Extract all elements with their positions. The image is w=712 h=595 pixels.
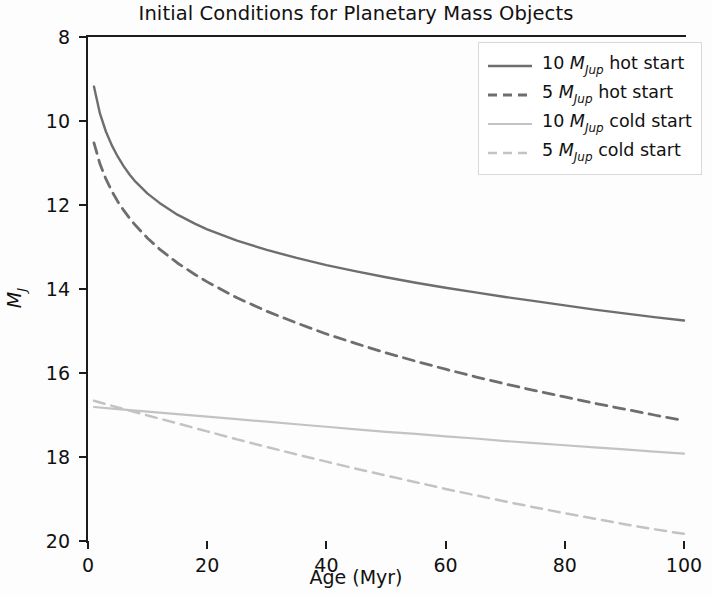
legend-item-1[interactable]: 10 MJup hot start — [487, 50, 693, 79]
x-tick-mark — [87, 541, 89, 549]
legend-item-2[interactable]: 5 MJup hot start — [487, 79, 693, 108]
legend-item-label: 10 MJup cold start — [542, 111, 692, 135]
legend-mass-subscript: Jup — [574, 91, 593, 105]
y-tick-label: 14 — [26, 278, 70, 300]
legend-start-type: hot start — [593, 82, 674, 102]
legend-item-3[interactable]: 10 MJup cold start — [487, 108, 693, 137]
y-tick-mark — [79, 456, 87, 458]
x-tick-label: 40 — [286, 554, 366, 576]
x-tick-mark — [564, 541, 566, 549]
y-tick-mark — [79, 204, 87, 206]
legend-line-swatch — [487, 87, 533, 101]
data-line-series-3 — [94, 407, 684, 454]
y-tick-mark — [79, 36, 87, 38]
x-tick-mark — [325, 541, 327, 549]
x-tick-mark — [445, 541, 447, 549]
legend-mass-number: 10 — [542, 53, 570, 73]
legend-mass-number: 5 — [542, 140, 559, 160]
x-tick-mark — [683, 541, 685, 549]
x-tick-label: 20 — [167, 554, 247, 576]
legend-mass-subscript: Jup — [585, 120, 604, 134]
page-title: Initial Conditions for Planetary Mass Ob… — [0, 2, 712, 25]
y-tick-mark — [79, 288, 87, 290]
y-tick-mark — [79, 540, 87, 542]
legend-item-label: 5 MJup cold start — [542, 140, 681, 164]
legend-mass-subscript: Jup — [574, 149, 593, 163]
data-line-series-2 — [94, 143, 684, 421]
x-tick-label: 80 — [525, 554, 605, 576]
y-tick-mark — [79, 372, 87, 374]
legend-item-4[interactable]: 5 MJup cold start — [487, 137, 693, 166]
x-tick-label: 0 — [48, 554, 128, 576]
legend-mass-symbol: M — [570, 111, 585, 131]
x-tick-label: 100 — [644, 554, 712, 576]
legend-line-swatch — [487, 58, 533, 72]
legend-start-type: cold start — [604, 111, 692, 131]
y-tick-label: 18 — [26, 446, 70, 468]
y-axis-label-base: M — [3, 291, 25, 307]
legend-item-label: 10 MJup hot start — [542, 53, 684, 77]
legend-mass-number: 5 — [542, 82, 559, 102]
legend-item-label: 5 MJup hot start — [542, 82, 673, 106]
legend-line-swatch — [487, 116, 533, 130]
chart-legend: 10 MJup hot start5 MJup hot start10 MJup… — [478, 42, 702, 175]
x-tick-mark — [206, 541, 208, 549]
y-tick-label: 8 — [26, 26, 70, 48]
y-tick-label: 16 — [26, 362, 70, 384]
legend-mass-symbol: M — [570, 53, 585, 73]
y-tick-label: 20 — [26, 530, 70, 552]
y-tick-label: 12 — [26, 194, 70, 216]
legend-mass-number: 10 — [542, 111, 570, 131]
legend-line-swatch — [487, 145, 533, 159]
legend-start-type: hot start — [604, 53, 685, 73]
chart-figure: Initial Conditions for Planetary Mass Ob… — [0, 0, 712, 595]
y-tick-mark — [79, 120, 87, 122]
legend-mass-symbol: M — [559, 82, 574, 102]
legend-mass-subscript: Jup — [585, 62, 604, 76]
legend-start-type: cold start — [593, 140, 681, 160]
data-line-series-4 — [94, 401, 684, 534]
legend-mass-symbol: M — [559, 140, 574, 160]
y-tick-label: 10 — [26, 110, 70, 132]
x-tick-label: 60 — [406, 554, 486, 576]
